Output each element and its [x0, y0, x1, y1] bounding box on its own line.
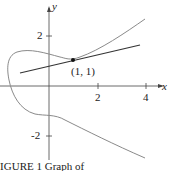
x-axis-label: x: [162, 81, 167, 92]
curve: [8, 19, 145, 158]
x-tick-label-2: 2: [95, 92, 101, 103]
point-annotation: (1, 1): [71, 66, 95, 77]
y-tick-label-2: 2: [37, 30, 43, 41]
point-marker: [71, 58, 75, 62]
y-tick-label-neg2: -2: [31, 130, 40, 141]
figure-caption: FIGURE 1 Graph of: [0, 161, 84, 171]
chart: [0, 0, 171, 171]
y-axis-arrow-icon: [47, 6, 51, 12]
x-tick-label-4: 4: [143, 92, 149, 103]
y-axis-label: y: [52, 1, 57, 12]
